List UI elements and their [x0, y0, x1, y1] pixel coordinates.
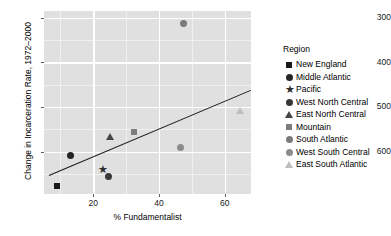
data-point	[236, 107, 244, 114]
triangle-marker-icon	[285, 111, 293, 118]
y-axis-title: Change in Incarceration Rate, 1972–2000	[23, 1, 33, 201]
legend-item-label: Pacific	[296, 83, 321, 96]
data-point	[54, 183, 60, 189]
legend-item-label: South Atlantic	[296, 133, 348, 146]
legend-item-label: New England	[296, 58, 347, 71]
gridline	[44, 129, 251, 130]
x-tick-mark	[225, 194, 226, 197]
legend-item-label: East North Central	[296, 108, 366, 121]
legend-key: ★	[283, 83, 296, 96]
gridline	[44, 62, 251, 63]
gridline	[225, 11, 226, 194]
star-marker-icon: ★	[285, 86, 294, 95]
trend-line	[49, 90, 251, 177]
gridline	[126, 11, 127, 194]
circle-marker-icon	[286, 99, 293, 106]
y-tick-mark	[41, 152, 44, 153]
legend-item[interactable]: West North Central	[283, 96, 389, 109]
square-marker-icon	[286, 124, 292, 130]
scatter-plot-figure: Change in Incarceration Rate, 1972–2000 …	[0, 0, 391, 236]
data-point	[106, 133, 114, 140]
data-point	[105, 173, 112, 180]
legend-item[interactable]: New England	[283, 58, 389, 71]
gridline	[44, 18, 251, 19]
legend-item[interactable]: East South Atlantic	[283, 158, 389, 171]
legend-item-label: West South Central	[296, 146, 370, 159]
x-tick-mark	[93, 194, 94, 197]
data-point	[180, 20, 187, 27]
y-tick-mark	[41, 107, 44, 108]
legend-item[interactable]: Middle Atlantic	[283, 71, 389, 84]
gridline	[44, 40, 251, 41]
legend-item[interactable]: South Atlantic	[283, 133, 389, 146]
legend-title: Region	[283, 44, 389, 55]
legend-item-label: Mountain	[296, 121, 331, 134]
gridline	[44, 152, 251, 153]
gridline	[44, 107, 251, 108]
legend-key	[283, 121, 296, 134]
legend-item[interactable]: East North Central	[283, 108, 389, 121]
gridline	[192, 11, 193, 194]
x-tick-label: 60	[210, 199, 240, 208]
x-tick-label: 40	[144, 199, 174, 208]
legend: Region New EnglandMiddle Atlantic★Pacifi…	[283, 44, 389, 171]
x-tick-label: 20	[78, 199, 108, 208]
legend-key	[283, 58, 296, 71]
legend-item-label: East South Atlantic	[296, 158, 367, 171]
gridline	[93, 11, 94, 194]
circle-marker-icon	[286, 136, 293, 143]
circle-marker-icon	[286, 74, 293, 81]
gridline	[60, 11, 61, 194]
legend-key	[283, 71, 296, 84]
legend-item[interactable]: West South Central	[283, 146, 389, 159]
legend-item-label: West North Central	[296, 96, 368, 109]
legend-key	[283, 96, 296, 109]
legend-key	[283, 146, 296, 159]
circle-marker-icon	[286, 149, 293, 156]
square-marker-icon	[286, 62, 292, 68]
legend-key	[283, 158, 296, 171]
legend-key	[283, 133, 296, 146]
data-point	[131, 129, 137, 135]
gridline	[44, 85, 251, 86]
triangle-marker-icon	[285, 161, 293, 168]
legend-item[interactable]: Mountain	[283, 121, 389, 134]
data-point	[67, 152, 74, 159]
gridline	[44, 174, 251, 175]
gridline	[159, 11, 160, 194]
x-tick-mark	[159, 194, 160, 197]
legend-item-label: Middle Atlantic	[296, 71, 351, 84]
data-point	[177, 144, 184, 151]
legend-item[interactable]: ★Pacific	[283, 83, 389, 96]
y-tick-mark	[41, 62, 44, 63]
legend-key	[283, 108, 296, 121]
y-tick-label: 300	[361, 13, 391, 22]
plot-panel: ★	[44, 11, 251, 194]
y-tick-mark	[41, 18, 44, 19]
x-axis-title: % Fundamentalist	[44, 212, 251, 222]
legend-item-list: New EnglandMiddle Atlantic★PacificWest N…	[283, 58, 389, 171]
